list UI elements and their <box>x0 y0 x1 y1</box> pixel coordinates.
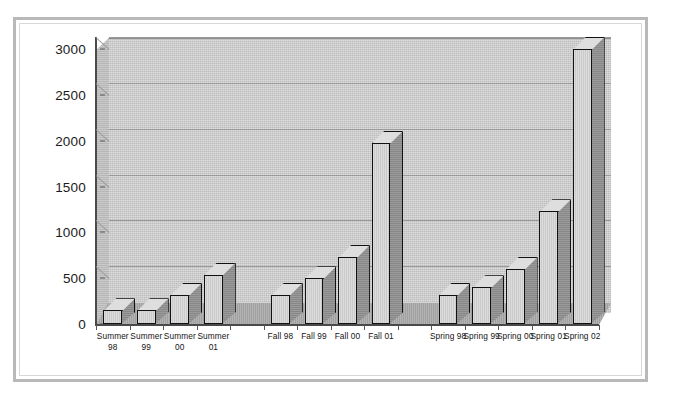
x-axis-labels: Summer 98Summer 99Summer 00Summer 01Fall… <box>24 331 637 371</box>
x-axis-tick-mark <box>130 325 131 330</box>
bar-side-face <box>557 199 571 324</box>
bar-front-face <box>573 49 592 324</box>
x-axis-category-label: Summer 01 <box>193 331 235 352</box>
bar-front-face <box>271 295 290 324</box>
bar[interactable] <box>372 131 404 325</box>
bar[interactable] <box>204 263 236 325</box>
x-axis-category-label: Fall 01 <box>360 331 402 342</box>
scanned-page: 050010001500200025003000 Summer 98Summer… <box>0 0 675 402</box>
bar[interactable] <box>573 37 605 324</box>
x-axis-tick-mark <box>465 325 466 330</box>
x-axis-tick-mark <box>297 325 298 330</box>
y-axis-tick-mark <box>100 186 105 187</box>
y-axis-tick-label: 3000 <box>42 42 86 57</box>
bar-front-face <box>338 257 357 324</box>
x-axis-category-label: Spring 02 <box>561 331 603 342</box>
x-axis-tick-mark <box>398 325 399 330</box>
x-axis-tick-mark <box>498 325 499 330</box>
bar-front-face <box>472 287 491 324</box>
x-axis-tick-mark <box>532 325 533 330</box>
bar-front-face <box>506 269 525 324</box>
y-axis-tick-mark <box>100 49 105 50</box>
y-axis-tick-mark <box>100 140 105 141</box>
x-axis-tick-mark <box>230 325 231 330</box>
bar-front-face <box>372 143 391 325</box>
y-axis-tick-label: 1500 <box>42 179 86 194</box>
y-axis-tick-label: 500 <box>42 271 86 286</box>
bar-front-face <box>204 275 223 325</box>
x-axis-tick-mark <box>264 325 265 330</box>
bar-front-face <box>305 278 324 324</box>
bar[interactable] <box>539 199 571 324</box>
bar-chart: 050010001500200025003000 Summer 98Summer… <box>24 28 637 371</box>
y-axis-tick-label: 2000 <box>42 133 86 148</box>
x-axis-tick-mark <box>431 325 432 330</box>
bar-front-face <box>439 295 458 324</box>
bar[interactable] <box>170 283 202 324</box>
x-axis-tick-mark <box>163 325 164 330</box>
bar[interactable] <box>472 275 504 324</box>
x-axis-tick-mark <box>364 325 365 330</box>
y-axis-tick-label: 1000 <box>42 225 86 240</box>
x-axis-tick-mark <box>197 325 198 330</box>
bar[interactable] <box>506 257 538 324</box>
bar-front-face <box>170 295 189 324</box>
bar[interactable] <box>439 283 471 324</box>
bar-front-face <box>103 310 122 324</box>
bar[interactable] <box>305 266 337 324</box>
x-axis-tick-mark <box>331 325 332 330</box>
y-axis-tick-mark <box>100 278 105 279</box>
bar[interactable] <box>137 298 169 324</box>
y-axis-tick-mark <box>100 94 105 95</box>
bar-side-face <box>591 37 605 324</box>
bar-front-face <box>539 211 558 324</box>
y-axis-tick-mark <box>100 232 105 233</box>
bar-side-face <box>389 131 403 325</box>
bar-front-face <box>137 310 156 324</box>
y-axis-labels: 050010001500200025003000 <box>38 28 86 371</box>
x-axis-tick-mark <box>565 325 566 330</box>
bar[interactable] <box>271 283 303 324</box>
y-axis-tick-label: 2500 <box>42 87 86 102</box>
y-axis-tick-label: 0 <box>42 317 86 332</box>
bar[interactable] <box>338 245 370 324</box>
x-axis-tick-mark <box>96 325 97 330</box>
bar[interactable] <box>103 298 135 324</box>
x-axis-tick-mark <box>599 325 600 330</box>
